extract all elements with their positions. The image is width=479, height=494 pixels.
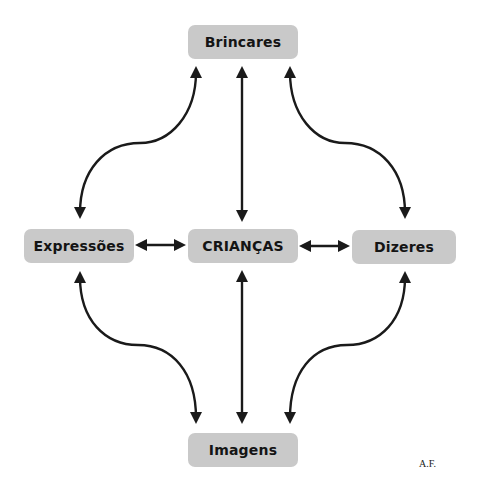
- node-dizeres: Dizeres: [352, 230, 456, 264]
- curve-brincares-dizeres: [290, 72, 405, 213]
- node-imagens: Imagens: [188, 433, 298, 467]
- node-criancas-center: CRIANÇAS: [188, 229, 298, 263]
- curve-dizeres-imagens: [290, 277, 405, 418]
- node-expressoes: Expressões: [24, 229, 134, 263]
- node-brincares: Brincares: [188, 25, 298, 59]
- curve-expressoes-imagens: [80, 277, 196, 418]
- curve-brincares-expressoes: [80, 72, 196, 213]
- author-signature: A.F.: [419, 458, 436, 469]
